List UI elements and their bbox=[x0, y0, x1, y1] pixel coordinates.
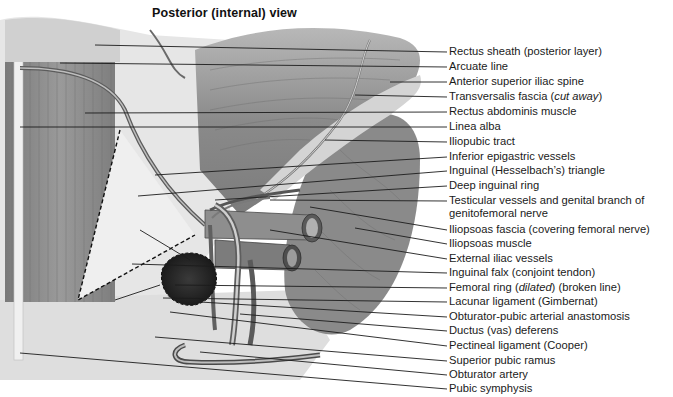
label-arcuate-line: Arcuate line bbox=[449, 60, 508, 73]
label-line-2: genitofemoral nerve bbox=[449, 207, 644, 220]
label-external-iliac-vessels: External iliac vessels bbox=[449, 252, 553, 265]
label-inguinal-falx: Inguinal falx (conjoint tendon) bbox=[449, 266, 595, 279]
label-superior-pubic-ramus: Superior pubic ramus bbox=[449, 354, 555, 367]
label-iliopubic-tract: Iliopubic tract bbox=[449, 135, 515, 148]
label-testicular-vessels: Testicular vessels and genital branch of… bbox=[449, 194, 644, 220]
label-femoral-ring: Femoral ring (dilated) (broken line) bbox=[449, 281, 621, 294]
label-iliopsoas-muscle: Iliopsoas muscle bbox=[449, 237, 532, 250]
label-text: Femoral ring bbox=[449, 281, 512, 293]
label-inguinal-triangle: Inguinal (Hesselbach’s) triangle bbox=[449, 164, 605, 177]
label-lacunar-ligament: Lacunar ligament (Gimbernat) bbox=[449, 295, 598, 308]
label-rectus-abdominis-muscle: Rectus abdominis muscle bbox=[449, 105, 576, 118]
label-iliopsoas-fascia: Iliopsoas fascia (covering femoral nerve… bbox=[449, 223, 650, 236]
label-line-1: Testicular vessels and genital branch of bbox=[449, 194, 644, 207]
linea-alba-shape bbox=[14, 20, 23, 360]
lower-pale-region bbox=[0, 290, 330, 380]
label-suffix-text: (broken line) bbox=[558, 281, 620, 293]
figure-title: Posterior (internal) view bbox=[152, 6, 297, 20]
label-pectineal-ligament: Pectineal ligament (Cooper) bbox=[449, 339, 588, 352]
label-inferior-epigastric-vessels: Inferior epigastric vessels bbox=[449, 150, 575, 163]
femoral-ring-shape bbox=[161, 253, 216, 305]
label-obturator-artery: Obturator artery bbox=[449, 368, 528, 381]
label-text: Transversalis fascia bbox=[449, 90, 547, 102]
label-deep-inguinal-ring: Deep inguinal ring bbox=[449, 179, 539, 192]
label-anterior-superior-iliac-spine: Anterior superior iliac spine bbox=[449, 75, 584, 88]
label-pubic-symphysis: Pubic symphysis bbox=[449, 382, 532, 395]
label-ductus-deferens: Ductus (vas) deferens bbox=[449, 324, 558, 337]
label-linea-alba: Linea alba bbox=[449, 120, 501, 133]
label-italic-text: cut away bbox=[554, 90, 598, 102]
label-transversalis-fascia: Transversalis fascia (cut away) bbox=[449, 90, 602, 103]
label-rectus-sheath: Rectus sheath (posterior layer) bbox=[449, 45, 602, 58]
label-obturator-pubic-anastomosis: Obturator-pubic arterial anastomosis bbox=[449, 310, 630, 323]
label-italic-text: dilated bbox=[519, 281, 552, 293]
